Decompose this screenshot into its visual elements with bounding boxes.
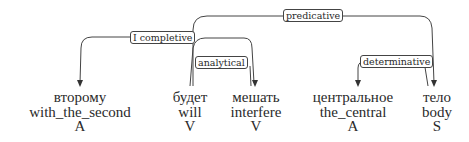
token-centralnoe: центральное the_central A — [313, 90, 393, 134]
token-pos: A — [29, 119, 131, 134]
relation-label-predicative: predicative — [283, 9, 343, 22]
arrow-determinative — [355, 80, 361, 87]
token-word: тело — [422, 90, 452, 105]
arc-predicative — [193, 16, 434, 86]
relation-label-determinative: determinative — [360, 55, 433, 68]
arrow-i-completive — [77, 80, 83, 87]
token-meshat: мешать interfere V — [231, 90, 282, 134]
token-word: центральное — [313, 90, 393, 105]
token-pos: V — [173, 119, 207, 134]
arc-analytical-inner — [250, 66, 251, 86]
token-pos: A — [313, 119, 393, 134]
token-word: второму — [29, 90, 131, 105]
token-telo: тело body S — [422, 90, 452, 134]
token-word: мешать — [231, 90, 282, 105]
arrow-analytical — [252, 80, 258, 87]
token-word: будет — [173, 90, 207, 105]
token-budet: будет will V — [173, 90, 207, 134]
token-gloss: will — [173, 105, 207, 120]
token-vtoromu: второму with_the_second A — [29, 90, 131, 134]
token-pos: V — [231, 119, 282, 134]
arrow-predicative — [431, 80, 437, 87]
relation-label-i-completive: I completive — [130, 31, 195, 44]
token-gloss: interfere — [231, 105, 282, 120]
token-pos: S — [422, 119, 452, 134]
token-gloss: body — [422, 105, 452, 120]
token-gloss: the_central — [313, 105, 393, 120]
relation-label-analytical: analytical — [195, 56, 248, 69]
token-gloss: with_the_second — [29, 105, 131, 120]
